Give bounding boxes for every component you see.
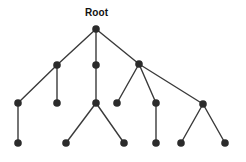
edge-layer xyxy=(18,29,225,143)
tree-edge xyxy=(66,103,96,143)
tree-edge xyxy=(96,103,124,143)
tree-node-root xyxy=(92,25,100,33)
root-label: Root xyxy=(85,8,108,18)
tree-node xyxy=(92,99,100,107)
tree-node xyxy=(152,139,160,147)
tree-node xyxy=(120,139,128,147)
tree-node xyxy=(14,139,22,147)
node-layer xyxy=(14,25,229,147)
tree-node xyxy=(152,99,160,107)
tree-node xyxy=(14,99,22,107)
tree-node xyxy=(53,61,61,69)
tree-node xyxy=(177,139,185,147)
tree-edge xyxy=(203,104,225,143)
tree-node xyxy=(53,99,61,107)
tree-node xyxy=(113,99,121,107)
tree-edge xyxy=(57,29,96,65)
tree-edge xyxy=(181,104,203,143)
tree-node xyxy=(199,100,207,108)
tree-canvas xyxy=(0,0,246,162)
tree-node xyxy=(62,139,70,147)
tree-edge xyxy=(117,64,139,103)
tree-node xyxy=(135,60,143,68)
tree-edge xyxy=(139,64,203,104)
tree-edge xyxy=(96,29,139,64)
tree-edge xyxy=(18,65,57,103)
tree-node xyxy=(92,61,100,69)
tree-diagram: Root xyxy=(0,0,246,162)
tree-node xyxy=(221,139,229,147)
